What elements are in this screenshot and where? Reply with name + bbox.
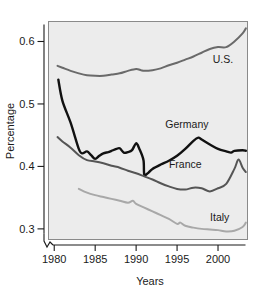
y-tick-label: 0.3 [19, 223, 34, 235]
line-chart: U.S.GermanyFranceItaly 0.30.40.50.6 1980… [0, 0, 267, 294]
x-tick-label: 1980 [42, 253, 66, 265]
y-tick-label: 0.4 [19, 160, 34, 172]
y-tick-label: 0.5 [19, 98, 34, 110]
x-tick-label: 2000 [206, 253, 230, 265]
series-label-germany: Germany [165, 118, 209, 130]
series-label-france: France [169, 158, 202, 170]
y-tick-label: 0.6 [19, 35, 34, 47]
series-label-italy: Italy [210, 211, 230, 223]
x-tick-label: 1995 [165, 253, 189, 265]
series-label-u-s: U.S. [213, 53, 233, 65]
y-axis-title: Percentage [4, 103, 16, 159]
x-axis-title: Years [136, 275, 164, 287]
x-tick-label: 1990 [124, 253, 148, 265]
chart-figure: U.S.GermanyFranceItaly 0.30.40.50.6 1980… [0, 0, 267, 294]
x-tick-label: 1985 [83, 253, 107, 265]
